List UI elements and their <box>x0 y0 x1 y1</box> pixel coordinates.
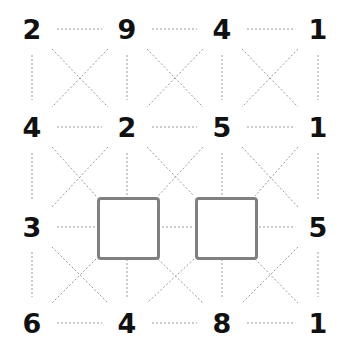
cell-r1-c1: 2 <box>107 107 147 147</box>
cell-r3-c1: 4 <box>107 303 147 343</box>
cell-r3-c2: 8 <box>202 303 242 343</box>
cell-r0-c1: 9 <box>107 9 147 49</box>
grid-lines <box>0 0 343 355</box>
cell-r0-c2: 4 <box>202 9 242 49</box>
empty-cell-input-r2-c2[interactable] <box>195 197 258 260</box>
cell-r3-c0: 6 <box>12 303 52 343</box>
cell-r0-c3: 1 <box>298 9 338 49</box>
empty-cell-input-r2-c1[interactable] <box>97 197 160 260</box>
cell-r2-c0: 3 <box>12 207 52 247</box>
cell-r2-c3: 5 <box>298 207 338 247</box>
puzzle-board: 2 9 4 1 4 2 5 1 3 5 6 4 8 1 <box>0 0 343 355</box>
cell-r1-c2: 5 <box>202 107 242 147</box>
cell-r0-c0: 2 <box>12 9 52 49</box>
cell-r1-c0: 4 <box>12 107 52 147</box>
cell-r3-c3: 1 <box>298 303 338 343</box>
cell-r1-c3: 1 <box>298 107 338 147</box>
